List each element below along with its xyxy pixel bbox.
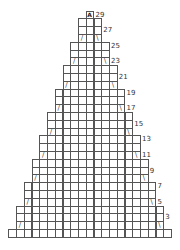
row-number-label: 5: [158, 198, 162, 206]
row-number-label: 7: [158, 182, 162, 190]
chart-cell: [148, 182, 157, 191]
right-decrease-icon: \: [125, 128, 133, 136]
right-decrease-icon: \: [156, 221, 164, 229]
right-decrease-icon: \: [109, 81, 117, 89]
row-number-label: 17: [127, 104, 136, 112]
row-number-label: 21: [119, 73, 128, 81]
chart-cell: [125, 120, 134, 129]
row-number-label: 15: [134, 120, 143, 128]
left-decrease-icon: /: [32, 174, 40, 182]
chart-cell: [117, 96, 126, 105]
left-decrease-icon: /: [39, 151, 47, 159]
chart-cell: [109, 73, 118, 82]
row-number-label: 13: [142, 135, 151, 143]
knitting-chart: /\/\/\/\/\/\/\/\/\A357911131517192123252…: [0, 0, 180, 250]
left-decrease-icon: /: [55, 104, 63, 112]
chart-cell: [132, 135, 141, 144]
row-number-label: 29: [96, 11, 105, 19]
chart-cell: [94, 18, 103, 27]
right-decrease-icon: \: [140, 174, 148, 182]
right-decrease-icon: \: [101, 57, 109, 65]
chart-cell: [140, 167, 149, 176]
right-decrease-icon: \: [117, 104, 125, 112]
row-number-label: 11: [142, 151, 151, 159]
row-number-label: 23: [111, 57, 120, 65]
right-decrease-icon: \: [94, 34, 102, 42]
chart-cell: [148, 190, 157, 199]
chart-cell: [101, 42, 110, 51]
right-decrease-icon: \: [132, 151, 140, 159]
chart-cell: [101, 50, 110, 59]
row-number-label: 19: [127, 89, 136, 97]
left-decrease-icon: /: [24, 198, 32, 206]
left-decrease-icon: /: [16, 221, 24, 229]
left-decrease-icon: /: [47, 128, 55, 136]
double-decrease-icon: A: [86, 11, 94, 19]
chart-cell: [109, 65, 118, 74]
chart-cell: [163, 229, 172, 238]
left-decrease-icon: /: [63, 81, 71, 89]
row-number-label: 25: [111, 42, 120, 50]
chart-cell: [140, 159, 149, 168]
row-number-label: 9: [150, 167, 154, 175]
chart-cell: [117, 89, 126, 98]
row-number-label: 3: [165, 213, 169, 221]
right-decrease-icon: \: [148, 198, 156, 206]
chart-cell: [94, 26, 103, 35]
left-decrease-icon: /: [70, 57, 78, 65]
chart-cell: [125, 112, 134, 121]
chart-cell: [156, 213, 165, 222]
left-decrease-icon: /: [78, 34, 86, 42]
row-number-label: 27: [103, 26, 112, 34]
chart-cell: [132, 143, 141, 152]
chart-cell: [156, 206, 165, 215]
